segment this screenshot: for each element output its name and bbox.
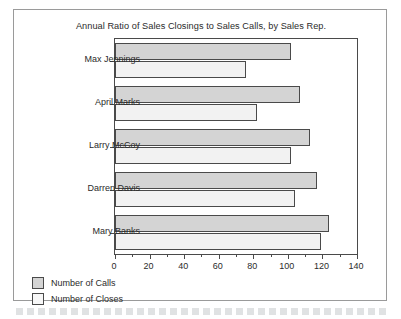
x-axis-minor-tick <box>201 254 202 257</box>
category-label: Larry McCoy <box>89 140 140 150</box>
bar-closes <box>115 190 295 207</box>
x-axis-minor-tick <box>271 254 272 257</box>
x-axis-tick-label: 40 <box>178 261 188 271</box>
x-axis-tick-label: 0 <box>111 261 116 271</box>
x-axis-tick-label: 20 <box>144 261 154 271</box>
plot-inner <box>115 39 357 254</box>
x-axis-major-tick <box>219 254 220 259</box>
figure-frame: Annual Ratio of Sales Closings to Sales … <box>13 9 387 301</box>
bar-closes <box>115 147 291 164</box>
legend-item-closes: Number of Closes <box>32 291 123 307</box>
bar-closes <box>115 61 246 78</box>
x-axis-tick-label: 100 <box>279 261 294 271</box>
x-axis-tick-label: 60 <box>213 261 223 271</box>
x-axis-major-tick <box>184 254 185 259</box>
bar-calls <box>115 43 291 60</box>
x-axis-minor-tick <box>340 254 341 257</box>
bar-calls <box>115 215 329 232</box>
x-axis-major-tick <box>322 254 323 259</box>
chart-title: Annual Ratio of Sales Closings to Sales … <box>14 21 388 31</box>
x-axis-minor-tick <box>132 254 133 257</box>
x-axis-minor-tick <box>305 254 306 257</box>
plot-area <box>114 38 358 255</box>
bar-calls <box>115 129 310 146</box>
chart-legend: Number of Calls Number of Closes <box>32 275 123 307</box>
x-axis-minor-tick <box>167 254 168 257</box>
category-label: Darren Davis <box>87 183 140 193</box>
x-axis-minor-tick <box>236 254 237 257</box>
category-label: Max Jennings <box>84 54 140 64</box>
bar-closes <box>115 233 321 250</box>
bar-closes <box>115 104 257 121</box>
bar-calls <box>115 86 300 103</box>
x-axis-major-tick <box>150 254 151 259</box>
x-axis-major-tick <box>357 254 358 259</box>
x-axis-tick-label: 120 <box>314 261 329 271</box>
legend-swatch-calls-icon <box>32 277 44 289</box>
figure-caption-blurred <box>16 308 386 315</box>
category-label: April Marks <box>95 97 140 107</box>
bar-calls <box>115 172 317 189</box>
x-axis-tick-label: 80 <box>247 261 257 271</box>
legend-label-calls: Number of Calls <box>51 278 116 288</box>
category-label: Mary Banks <box>92 226 140 236</box>
legend-label-closes: Number of Closes <box>51 294 123 304</box>
x-axis-major-tick <box>115 254 116 259</box>
legend-item-calls: Number of Calls <box>32 275 123 291</box>
x-axis-major-tick <box>288 254 289 259</box>
x-axis-major-tick <box>253 254 254 259</box>
legend-swatch-closes-icon <box>32 293 44 305</box>
x-axis-tick-label: 140 <box>348 261 363 271</box>
